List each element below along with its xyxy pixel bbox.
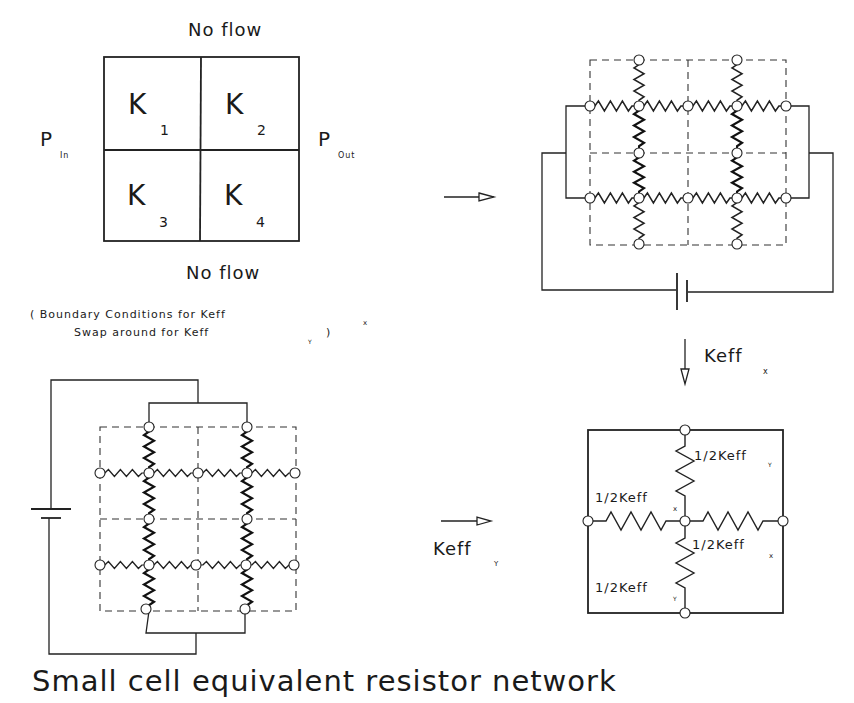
no-flow-bottom-label: No flow (186, 262, 260, 283)
svg-text:Swap around for Keff: Swap around for Keff (74, 326, 209, 339)
svg-text:x: x (673, 505, 678, 513)
svg-text:Y: Y (672, 595, 678, 602)
battery-icon-y (31, 509, 71, 518)
arrow-right-keff-y: Keff Y (433, 517, 499, 568)
battery-icon (677, 273, 687, 310)
grid-divider-vertical (200, 57, 201, 241)
resistor-right (685, 512, 783, 530)
cell-k2: K 2 (225, 88, 267, 138)
svg-text:Y: Y (767, 461, 773, 468)
svg-text:2: 2 (257, 122, 267, 138)
keff-y-resistor-network (31, 380, 300, 654)
svg-text:1: 1 (160, 122, 170, 138)
svg-text:x: x (769, 552, 774, 560)
svg-text:K: K (225, 88, 244, 121)
no-flow-top-label: No flow (188, 19, 262, 40)
svg-text:P: P (318, 127, 331, 151)
keff-x-label: Keff (704, 345, 743, 366)
svg-text:K: K (127, 179, 146, 212)
svg-text:In: In (60, 151, 69, 160)
svg-text:1/2Keff: 1/2Keff (595, 490, 648, 505)
svg-text:): ) (326, 326, 331, 339)
svg-text:Y: Y (307, 338, 313, 345)
svg-text:1/2Keff: 1/2Keff (692, 537, 745, 552)
svg-text:4: 4 (256, 214, 266, 230)
label-top-right: 1/2Keff Y (694, 448, 773, 468)
horizontal-resistors-x (590, 101, 785, 203)
svg-text:3: 3 (159, 214, 169, 230)
boundary-conditions-panel: No flow K 1 K 2 K 3 K 4 P In P Out No fl… (30, 19, 368, 345)
equivalent-network: 1/2Keff Y 1/2Keff x 1/2Keff x 1/2Keff Y (583, 425, 788, 618)
resistor-bottom (676, 521, 694, 613)
cell-k1: K 1 (128, 88, 170, 138)
pressure-in-label: P In (40, 127, 69, 160)
resistor-left (588, 512, 685, 530)
svg-text:( Boundary Conditions for Keff: ( Boundary Conditions for Keff (30, 308, 226, 321)
svg-text:Y: Y (493, 560, 499, 568)
label-left: 1/2Keff x (595, 490, 678, 513)
cell-k3: K 3 (127, 179, 169, 230)
pressure-out-label: P Out (318, 127, 356, 160)
svg-text:Out: Out (338, 151, 356, 160)
svg-text:1/2Keff: 1/2Keff (694, 448, 747, 463)
cell-k4: K 4 (224, 179, 266, 230)
label-right: 1/2Keff x (692, 537, 774, 560)
svg-text:K: K (128, 88, 147, 121)
svg-text:K: K (224, 179, 243, 212)
dashed-cell-grid-y (100, 427, 296, 611)
resistor-top (676, 430, 694, 521)
arrow-right-to-x-network (444, 193, 494, 201)
arrow-down-keff-x: Keff x (681, 339, 769, 384)
svg-text:x: x (363, 319, 368, 327)
keff-y-label: Keff (433, 538, 472, 559)
boundary-caption: ( Boundary Conditions for Keff x Swap ar… (30, 308, 368, 345)
resistor-network-diagram: No flow K 1 K 2 K 3 K 4 P In P Out No fl… (0, 0, 854, 703)
svg-text:P: P (40, 127, 53, 151)
svg-text:1/2Keff: 1/2Keff (595, 580, 648, 595)
figure-title: Small cell equivalent resistor network (32, 664, 617, 698)
svg-text:x: x (763, 367, 769, 376)
dashed-cell-grid-x (590, 60, 786, 245)
label-bottom-left: 1/2Keff Y (595, 580, 678, 602)
keff-x-resistor-network (542, 55, 833, 310)
